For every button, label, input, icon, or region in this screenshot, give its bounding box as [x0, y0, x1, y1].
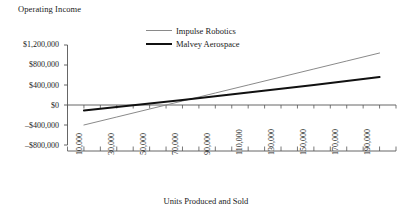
x-tick-label: 50,000 [140, 133, 148, 155]
x-tick-label: 90,000 [204, 133, 212, 155]
x-tick-label: 110,000 [236, 129, 244, 155]
x-tick-label: 10,000 [76, 133, 84, 155]
x-tick-label: 190,000 [364, 129, 372, 155]
x-tick-label: 130,000 [268, 129, 276, 155]
x-tick-label: 70,000 [172, 133, 180, 155]
x-axis-title: Units Produced and Sold [0, 196, 412, 206]
x-tick-label: 170,000 [332, 129, 340, 155]
x-axis-tick-labels: 10,000 30,000 50,000 70,000 90,000 110,0… [0, 0, 412, 216]
x-tick-label: 30,000 [108, 133, 116, 155]
operating-income-chart: Operating Income Impulse Robotics Malvey… [0, 0, 412, 216]
x-tick-label: 150,000 [300, 129, 308, 155]
